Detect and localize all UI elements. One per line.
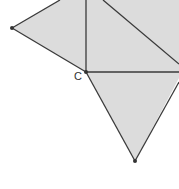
point-bottom [133,159,137,163]
upper-square [86,0,179,72]
point-left [10,26,14,30]
point-C [84,70,88,74]
label-C: C [74,70,82,82]
geometry-diagram: C [0,0,179,189]
bottom-triangle [86,72,179,161]
left-triangle [12,0,86,72]
